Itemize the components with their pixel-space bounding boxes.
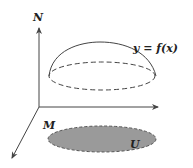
label-m: M xyxy=(42,119,56,132)
label-n: N xyxy=(32,11,44,24)
label-graph-equation: y = f(x) xyxy=(132,42,178,55)
label-u: U xyxy=(130,138,141,151)
diagonal-axis xyxy=(12,107,39,158)
dome-base-dashed-ellipse xyxy=(49,62,155,90)
diagram-canvas: N M U y = f(x) xyxy=(0,0,193,168)
region-u-ellipse xyxy=(48,126,156,152)
